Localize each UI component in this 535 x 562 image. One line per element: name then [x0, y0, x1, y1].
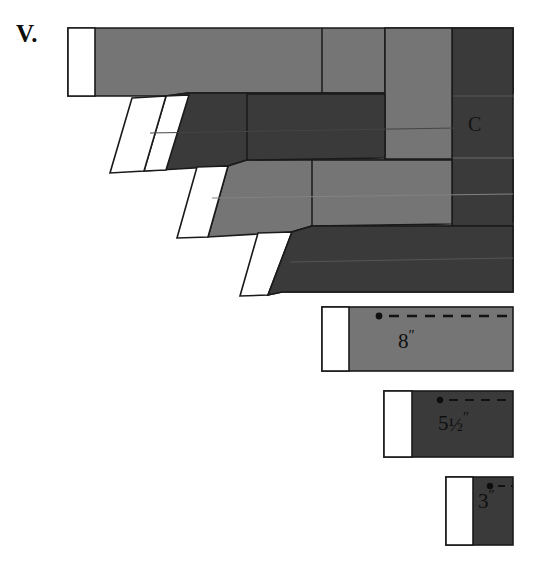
dim-3-inch-mark: ″	[489, 487, 495, 503]
bar-8-center-dot	[376, 313, 383, 320]
dim-5h-inch-mark: ″	[463, 409, 469, 425]
dim-3-value: 3	[478, 489, 489, 513]
dim-8-value: 8	[398, 329, 409, 353]
upper-right-panel	[385, 28, 452, 159]
bar-8-white-tip	[322, 307, 349, 371]
course-1-white-tip	[68, 28, 95, 96]
plate-number: V.	[16, 20, 38, 48]
bar-5h-white-tip	[384, 391, 412, 457]
course-2-overlap-segment	[247, 94, 385, 160]
upper-right-panel-body	[385, 28, 452, 159]
bar-3-white-tip	[446, 477, 473, 545]
dimension-label-8-inch: 8″	[398, 327, 415, 354]
dim-5h-fraction: ½	[449, 414, 463, 436]
bar-5h-center-dot	[437, 397, 443, 403]
dim-5h-whole: 5	[438, 411, 449, 435]
course-4-right-strip	[268, 226, 513, 295]
dimension-bar-8-inch	[322, 307, 513, 371]
dimension-label-3-inch: 3″	[478, 487, 495, 514]
dim-8-inch-mark: ″	[409, 327, 415, 343]
post-c-body	[452, 28, 513, 226]
label-c: C	[468, 113, 481, 136]
figure-root: V. C 8″ 5½″ 3″	[0, 0, 535, 562]
board-assembly-diagram	[0, 0, 535, 562]
course-3-right-strip-body	[312, 160, 452, 226]
vertical-post-c	[452, 28, 513, 226]
course-3-right-strip	[312, 160, 452, 226]
dimension-label-5-half-inch: 5½″	[438, 409, 469, 436]
course-2-overlap-body	[247, 94, 385, 160]
